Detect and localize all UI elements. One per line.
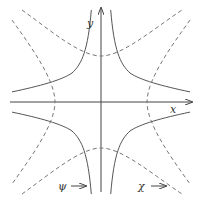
solid-branch-bottom-right: [111, 112, 190, 194]
dashed-branch-top: [22, 10, 182, 56]
solid-branch-top-left: [12, 10, 91, 92]
dashed-branch-bottom: [22, 148, 182, 194]
x-axis-label: x: [170, 103, 177, 116]
hyperbola-diagram: y x ψ χ: [0, 0, 201, 200]
solid-branch-top-right: [111, 10, 190, 92]
solid-branch-bottom-left: [12, 112, 91, 194]
psi-label: ψ: [58, 180, 67, 193]
chi-label: χ: [137, 180, 146, 193]
y-axis-label: y: [86, 17, 94, 30]
